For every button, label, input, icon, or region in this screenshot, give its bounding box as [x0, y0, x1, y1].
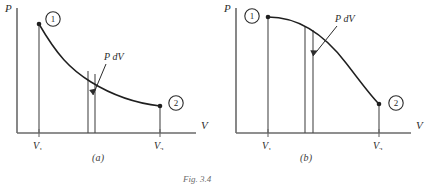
state-label-2-a: 2: [174, 98, 179, 108]
state-point-1-b: [266, 15, 271, 20]
tick-label-v1-b: V1: [262, 140, 272, 150]
state-point-1-a: [37, 22, 42, 27]
expansion-curve-a: [39, 24, 160, 106]
y-axis-label-b: P: [223, 2, 231, 14]
pv-diagram-a: P V 1 2 P dV: [0, 0, 215, 150]
panel-b: P V 1 2 P dV: [215, 0, 431, 154]
figure-container: P V 1 2 P dV: [0, 0, 431, 184]
tick-label-v2-a: V2: [154, 140, 164, 150]
state-point-2-a: [158, 104, 163, 109]
tick-label-v1-a: V1: [33, 140, 43, 150]
subcaption-b: (b): [300, 152, 312, 163]
expansion-curve-b: [268, 17, 379, 104]
x-axis-label-a: V: [201, 119, 209, 131]
y-axis-label-a: P: [4, 2, 12, 14]
state-label-1-a: 1: [51, 14, 56, 24]
pdv-label-a: P dV: [103, 51, 125, 62]
subcaption-a: (a): [92, 152, 104, 163]
figure-caption: Fig. 3.4: [183, 174, 211, 184]
state-point-2-b: [377, 102, 382, 107]
pv-diagram-b: P V 1 2 P dV: [215, 0, 431, 150]
state-label-2-b: 2: [394, 98, 399, 108]
state-label-1-b: 1: [250, 11, 255, 21]
x-axis-label-b: V: [416, 119, 424, 131]
tick-label-v2-b: V2: [373, 140, 383, 150]
pdv-label-b: P dV: [334, 13, 356, 24]
panel-a: P V 1 2 P dV: [0, 0, 215, 154]
